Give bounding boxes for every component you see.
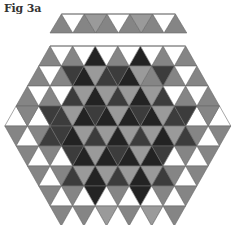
top-triangle-strip — [50, 14, 187, 33]
triangle-tiling-figure — [0, 0, 235, 225]
hexagon-tiling — [5, 46, 231, 225]
